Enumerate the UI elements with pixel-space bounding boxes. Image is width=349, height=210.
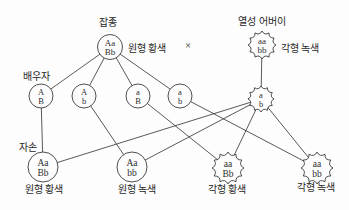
offspring-aabb-line2: bb xyxy=(312,169,322,179)
hybrid-label: 잡종 xyxy=(99,17,117,28)
genetics-diagram: 잡종 열성 어버이 배우자 자손 × Aa Bb 원형 황색 aa bb 각형 … xyxy=(0,0,349,210)
recessive-parent-label: 열성 어버이 xyxy=(238,16,286,27)
hybrid-phenotype-label: 원형 황색 xyxy=(128,43,167,54)
offspring-aabb-phenotype: 각형 녹색 xyxy=(297,182,336,193)
recessive-genotype-line2: bb xyxy=(258,45,268,55)
gamete-ab-line2: b xyxy=(178,96,182,106)
recessive-genotype-line1: aa xyxy=(258,36,266,46)
line-gamete-ab-to-offspring-aabb xyxy=(180,96,317,168)
hybrid-genotype-line1: Aa xyxy=(105,38,116,48)
offspring-aaBb-line2: Bb xyxy=(222,169,233,179)
gamete-spiky-line2: b xyxy=(259,99,263,109)
gamete-spiky-line1: a xyxy=(259,90,263,100)
offspring-label: 자손 xyxy=(19,142,37,153)
offspring-aaBb-phenotype: 각형 황색 xyxy=(208,184,247,195)
offspring-AaBb-phenotype: 원형 황색 xyxy=(25,184,64,195)
gamete-ab-line1: a xyxy=(178,87,182,97)
gamete-aB-line1: a xyxy=(136,87,140,97)
diagram-canvas: 잡종 열성 어버이 배우자 자손 × Aa Bb 원형 황색 aa bb 각형 … xyxy=(0,0,349,210)
hybrid-genotype-line2: Bb xyxy=(105,47,116,57)
gamete-AB-line1: A xyxy=(38,87,45,97)
gamete-Ab-line1: A xyxy=(81,87,88,97)
gamete-AB-line2: B xyxy=(38,96,44,106)
gamete-aB-line2: B xyxy=(135,96,141,106)
gametes-label: 배우자 xyxy=(23,71,50,82)
cross-symbol: × xyxy=(185,40,191,51)
offspring-Aabb-line2: bb xyxy=(127,168,137,178)
offspring-AaBb-line1: Aa xyxy=(37,158,49,168)
offspring-Aabb-phenotype: 원형 녹색 xyxy=(118,184,157,195)
offspring-Aabb-line1: Aa xyxy=(126,158,138,168)
offspring-aabb-line1: aa xyxy=(313,159,322,169)
offspring-AaBb-line2: Bb xyxy=(37,168,48,178)
recessive-phenotype-label: 각형 녹색 xyxy=(281,43,320,54)
offspring-aaBb-line1: aa xyxy=(224,159,233,169)
gamete-Ab-line2: b xyxy=(82,96,86,106)
